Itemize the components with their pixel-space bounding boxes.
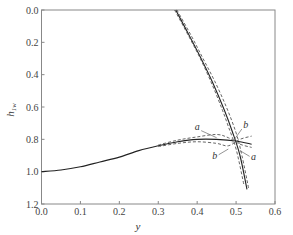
y-tick-label: 1.2 xyxy=(26,199,39,210)
plot-frame xyxy=(42,10,276,204)
y-tick-label: 0.2 xyxy=(26,37,39,48)
chart: 0.00.10.20.30.40.50.6 0.00.20.40.60.81.0… xyxy=(0,0,293,235)
x-axis-label: y xyxy=(135,220,141,232)
y-tick-label: 0.4 xyxy=(26,69,39,80)
series-group xyxy=(42,10,252,189)
series-line xyxy=(177,10,249,188)
annotation-label: b xyxy=(212,150,217,161)
series-line xyxy=(175,10,244,185)
x-tick-label: 0.2 xyxy=(113,206,126,217)
y-tick-label: 0.8 xyxy=(26,134,39,145)
x-tick-label: 0.5 xyxy=(230,206,243,217)
y-axis-label-sub: 1w xyxy=(10,103,18,112)
x-tick-label: 0.4 xyxy=(191,206,204,217)
annotations: abba xyxy=(195,119,256,162)
annotation-label: a xyxy=(251,151,256,162)
annotation-leader xyxy=(240,151,250,157)
y-axis-label: h1w xyxy=(4,103,18,117)
series-line xyxy=(176,10,247,189)
annotation-label: a xyxy=(195,121,200,132)
x-axis: 0.00.10.20.30.40.50.6 xyxy=(35,201,281,217)
y-tick-label: 1.0 xyxy=(26,166,39,177)
x-tick-label: 0.1 xyxy=(74,206,87,217)
y-tick-label: 0.6 xyxy=(26,102,39,113)
x-tick-label: 0.6 xyxy=(269,206,282,217)
annotation-label: b xyxy=(243,119,248,130)
annotation-leader xyxy=(219,149,229,155)
y-tick-label: 0.0 xyxy=(26,5,39,16)
x-tick-label: 0.3 xyxy=(152,206,165,217)
